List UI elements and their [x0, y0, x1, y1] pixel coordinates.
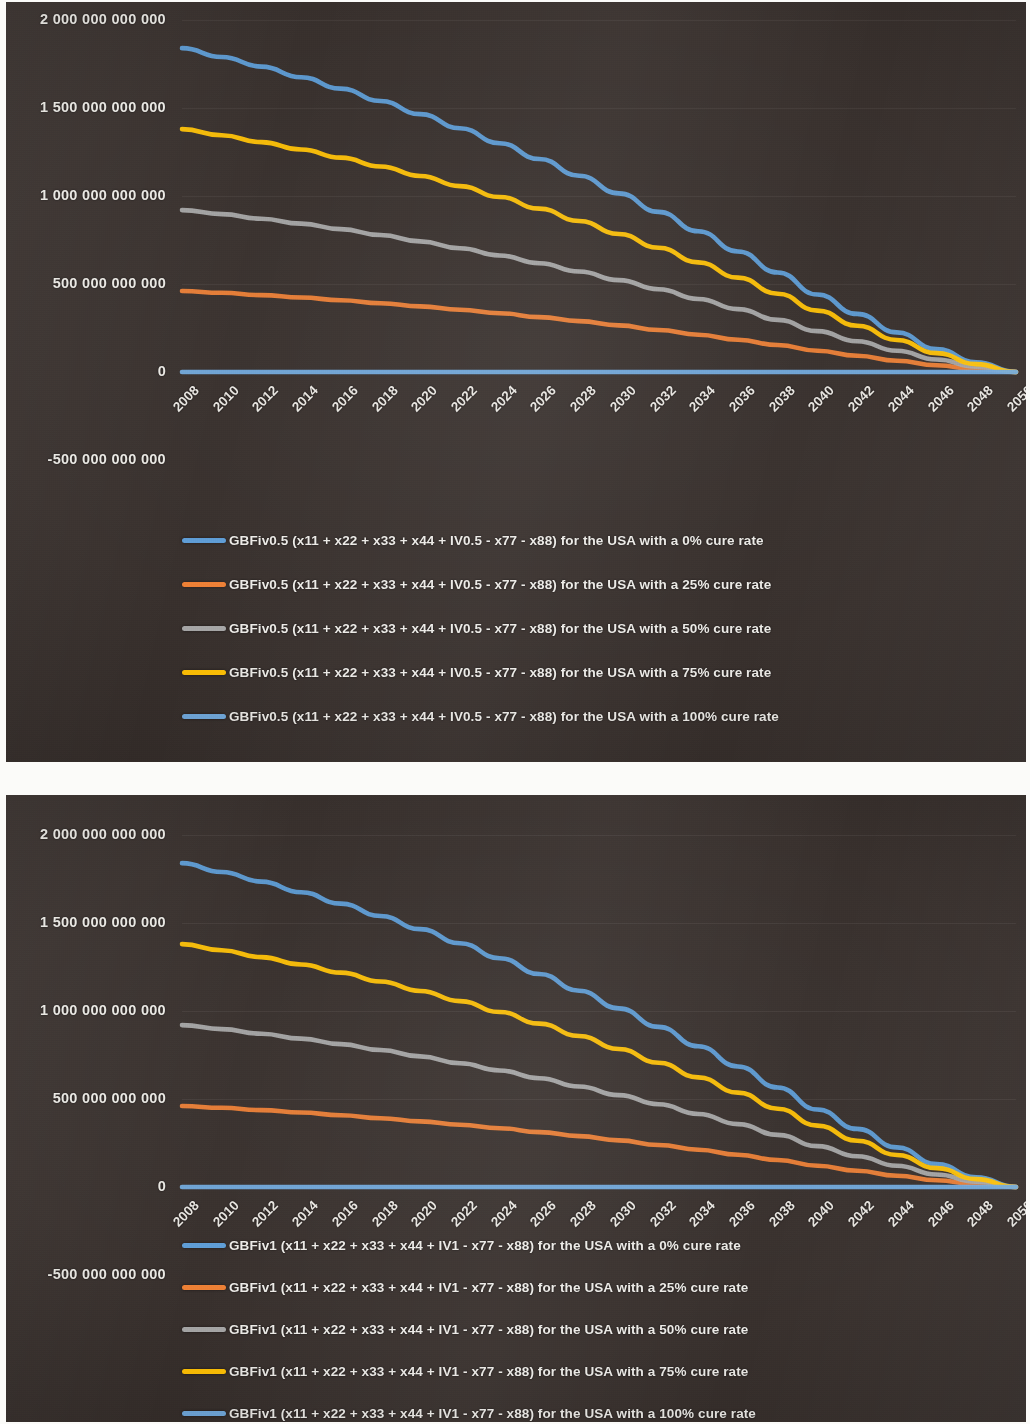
legend-item-label: GBFiv0.5 (x11 + x22 + x33 + x44 + IV0.5 …	[229, 577, 771, 592]
panel-separator	[0, 762, 1030, 795]
legend-item-label: GBFiv0.5 (x11 + x22 + x33 + x44 + IV0.5 …	[229, 709, 779, 724]
legend-color-swatch-icon	[182, 670, 226, 675]
page-edge-right	[1026, 0, 1030, 1424]
legend-color-swatch-icon	[182, 1369, 226, 1374]
legend-color-swatch-icon	[182, 1285, 226, 1290]
legend-item-label: GBFiv1 (x11 + x22 + x33 + x44 + IV1 - x7…	[229, 1364, 748, 1379]
legend-item[interactable]: GBFiv0.5 (x11 + x22 + x33 + x44 + IV0.5 …	[182, 530, 779, 550]
legend-item[interactable]: GBFiv0.5 (x11 + x22 + x33 + x44 + IV0.5 …	[182, 662, 779, 682]
chart-legend: GBFiv0.5 (x11 + x22 + x33 + x44 + IV0.5 …	[182, 530, 779, 750]
legend-item[interactable]: GBFiv1 (x11 + x22 + x33 + x44 + IV1 - x7…	[182, 1403, 756, 1422]
chart-panel-gbfiv05: 2 000 000 000 0001 500 000 000 0001 000 …	[6, 2, 1026, 762]
legend-item-label: GBFiv1 (x11 + x22 + x33 + x44 + IV1 - x7…	[229, 1238, 741, 1253]
series-line	[182, 944, 1016, 1187]
legend-item[interactable]: GBFiv1 (x11 + x22 + x33 + x44 + IV1 - x7…	[182, 1235, 756, 1255]
legend-item[interactable]: GBFiv0.5 (x11 + x22 + x33 + x44 + IV0.5 …	[182, 574, 779, 594]
legend-item-label: GBFiv1 (x11 + x22 + x33 + x44 + IV1 - x7…	[229, 1406, 756, 1421]
page-edge-top	[0, 0, 1030, 2]
chart-legend: GBFiv1 (x11 + x22 + x33 + x44 + IV1 - x7…	[182, 1235, 756, 1422]
legend-item[interactable]: GBFiv0.5 (x11 + x22 + x33 + x44 + IV0.5 …	[182, 618, 779, 638]
page-edge-left	[0, 0, 6, 1424]
legend-color-swatch-icon	[182, 1243, 226, 1248]
legend-item-label: GBFiv0.5 (x11 + x22 + x33 + x44 + IV0.5 …	[229, 533, 764, 548]
legend-item[interactable]: GBFiv1 (x11 + x22 + x33 + x44 + IV1 - x7…	[182, 1319, 756, 1339]
legend-item-label: GBFiv1 (x11 + x22 + x33 + x44 + IV1 - x7…	[229, 1280, 748, 1295]
legend-item[interactable]: GBFiv1 (x11 + x22 + x33 + x44 + IV1 - x7…	[182, 1361, 756, 1381]
legend-item[interactable]: GBFiv1 (x11 + x22 + x33 + x44 + IV1 - x7…	[182, 1277, 756, 1297]
legend-color-swatch-icon	[182, 714, 226, 719]
slide-page: 2 000 000 000 0001 500 000 000 0001 000 …	[0, 0, 1030, 1424]
series-line	[182, 210, 1016, 372]
legend-color-swatch-icon	[182, 626, 226, 631]
legend-item-label: GBFiv0.5 (x11 + x22 + x33 + x44 + IV0.5 …	[229, 621, 771, 636]
legend-color-swatch-icon	[182, 1327, 226, 1332]
legend-color-swatch-icon	[182, 582, 226, 587]
legend-color-swatch-icon	[182, 538, 226, 543]
series-line	[182, 129, 1016, 372]
legend-item-label: GBFiv1 (x11 + x22 + x33 + x44 + IV1 - x7…	[229, 1322, 748, 1337]
series-line	[182, 1025, 1016, 1187]
legend-item[interactable]: GBFiv0.5 (x11 + x22 + x33 + x44 + IV0.5 …	[182, 706, 779, 726]
chart-panel-gbfiv1: 2 000 000 000 0001 500 000 000 0001 000 …	[6, 795, 1026, 1422]
legend-item-label: GBFiv0.5 (x11 + x22 + x33 + x44 + IV0.5 …	[229, 665, 771, 680]
legend-color-swatch-icon	[182, 1411, 226, 1416]
